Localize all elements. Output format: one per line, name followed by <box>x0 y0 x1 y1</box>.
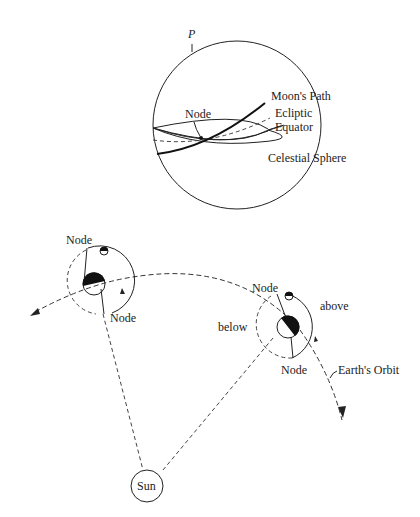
above-label: above <box>320 299 349 313</box>
pole-label: P <box>187 27 196 41</box>
orbit-arrow-right <box>338 406 346 418</box>
celestial-sphere-label: Celestial Sphere <box>268 151 346 165</box>
left-node-bottom-label: Node <box>110 311 136 325</box>
sphere-node-label: Node <box>185 107 211 121</box>
earth-orbit-leader <box>330 371 337 378</box>
node-point <box>199 136 203 140</box>
left-earth-system: Node Node <box>66 233 143 470</box>
earth-orbit-path <box>35 274 342 420</box>
moons-path-label: Moon's Path <box>271 89 331 103</box>
equator-label: Equator <box>275 120 313 134</box>
eclipse-nodes-diagram: P Node Moon's Path Ecliptic Equator Cele… <box>0 0 420 517</box>
below-label: below <box>218 320 248 334</box>
right-node-top-label: Node <box>252 281 278 295</box>
earth-orbit-figure: Node Node Node Node above below Earth's … <box>30 233 400 502</box>
orbit-arrow-left <box>30 308 40 316</box>
node-pointer <box>194 122 200 136</box>
earth-orbit-label: Earth's Orbit <box>338 363 400 377</box>
right-earth-night-side <box>281 316 299 336</box>
left-sun-line <box>103 314 143 470</box>
celestial-sphere-figure: P Node Moon's Path Ecliptic Equator Cele… <box>153 27 346 209</box>
ecliptic-label: Ecliptic <box>275 106 312 120</box>
moons-path-line <box>157 103 265 154</box>
left-node-top-label: Node <box>66 233 92 247</box>
right-node-bottom-label: Node <box>281 363 307 377</box>
right-earth-system: Node Node above below <box>163 281 349 470</box>
right-sun-line <box>163 338 273 470</box>
sun-label: Sun <box>137 479 156 493</box>
